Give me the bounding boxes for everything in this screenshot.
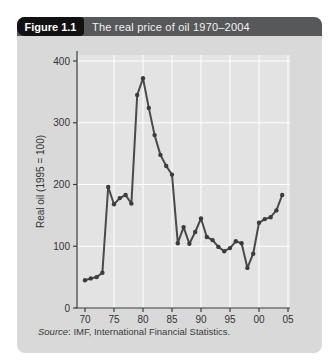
data-point <box>239 241 243 245</box>
data-point <box>263 217 267 221</box>
data-point <box>245 266 249 270</box>
source-label: Source <box>38 326 68 337</box>
x-tick-label: 90 <box>195 314 207 325</box>
y-tick-label: 200 <box>53 179 70 190</box>
x-tick-label: 80 <box>137 314 149 325</box>
data-point <box>164 164 168 168</box>
x-tick-label: 95 <box>224 314 236 325</box>
data-point <box>100 271 104 275</box>
data-point <box>257 221 261 225</box>
data-point <box>123 193 127 197</box>
x-tick-label: 75 <box>108 314 120 325</box>
data-point <box>187 242 191 246</box>
data-point <box>112 202 116 206</box>
data-point <box>118 196 122 200</box>
y-tick-label: 100 <box>53 241 70 252</box>
data-point <box>129 201 133 205</box>
y-tick-label: 400 <box>53 56 70 67</box>
y-tick-label: 300 <box>53 117 70 128</box>
x-tick-label: 00 <box>253 314 265 325</box>
data-point <box>141 76 145 80</box>
page: Figure 1.1 The real price of oil 1970–20… <box>0 0 334 361</box>
x-tick-label: 85 <box>166 314 178 325</box>
plot-background <box>77 55 290 308</box>
data-point <box>210 238 214 242</box>
figure-header: Figure 1.1 The real price of oil 1970–20… <box>17 17 322 36</box>
data-point <box>222 249 226 253</box>
data-point <box>170 172 174 176</box>
data-point <box>280 193 284 197</box>
data-point <box>216 245 220 249</box>
data-point <box>158 153 162 157</box>
data-point <box>228 246 232 250</box>
figure-title: The real price of oil 1970–2004 <box>92 21 250 33</box>
figure-label: Figure 1.1 <box>17 17 84 36</box>
x-tick-label: 70 <box>79 314 91 325</box>
data-point <box>274 208 278 212</box>
y-axis-title: Real oil (1995 = 100) <box>35 135 46 228</box>
data-point <box>135 93 139 97</box>
data-point <box>176 241 180 245</box>
data-point <box>152 133 156 137</box>
data-point <box>94 275 98 279</box>
data-point <box>234 239 238 243</box>
data-point <box>199 216 203 220</box>
source-note: Source: IMF, International Financial Sta… <box>38 326 318 337</box>
data-point <box>83 278 87 282</box>
data-point <box>205 235 209 239</box>
y-tick-label: 0 <box>64 303 70 314</box>
source-text: : IMF, International Financial Statistic… <box>68 326 230 337</box>
data-point <box>89 276 93 280</box>
data-point <box>106 185 110 189</box>
data-point <box>193 230 197 234</box>
data-point <box>181 225 185 229</box>
chart-area: 01002003004007075808590950005Real oil (1… <box>17 36 322 326</box>
data-point <box>251 252 255 256</box>
x-tick-label: 05 <box>282 314 294 325</box>
data-point <box>268 215 272 219</box>
data-point <box>147 106 151 110</box>
figure-panel: Figure 1.1 The real price of oil 1970–20… <box>17 17 322 353</box>
oil-price-line-chart: 01002003004007075808590950005Real oil (1… <box>17 36 322 326</box>
